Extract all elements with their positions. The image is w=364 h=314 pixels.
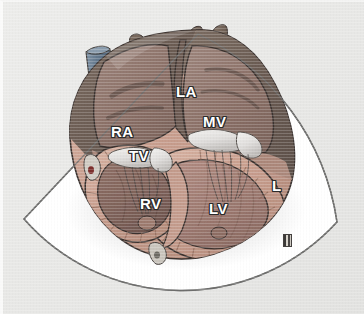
echocardiography-heart-figure: LA MV RA TV RV LV L bbox=[0, 0, 364, 314]
papillary-muscle-rv bbox=[138, 216, 156, 230]
coronary-lumen-bottom bbox=[154, 252, 160, 259]
illustration-canvas bbox=[0, 0, 364, 314]
papillary-muscle-lv bbox=[211, 227, 227, 239]
coronary-lumen-left bbox=[88, 166, 94, 174]
artist-signature-stamp bbox=[283, 234, 292, 247]
